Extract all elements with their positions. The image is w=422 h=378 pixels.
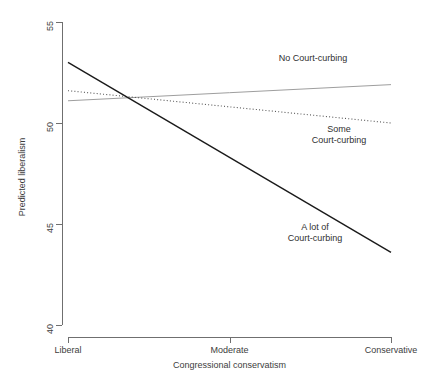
series-label-no-court-curbing: No Court-curbing	[258, 53, 368, 64]
series-line	[68, 91, 391, 123]
series-label-some-court-curbing: Some Court-curbing	[292, 124, 386, 146]
chart-figure: Predicted liberalism Congressional conse…	[0, 0, 422, 378]
series-label-a-lot-of-court-curbing: A lot of Court-curbing	[268, 222, 362, 244]
series-line	[68, 85, 391, 101]
